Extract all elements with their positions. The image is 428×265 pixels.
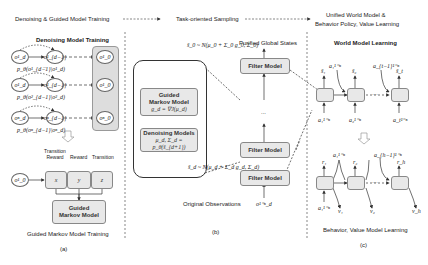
denoised-step-node-1: o¹_{d−1}: [46, 50, 64, 64]
value-2: v₂: [370, 208, 375, 214]
xyz-cell-x: x: [45, 171, 67, 189]
behavior-output-1: r₁: [322, 159, 326, 165]
purified-global-states-label: Purified Global States: [239, 40, 297, 46]
behavior-model-cell-1: [316, 176, 334, 190]
original-observations-symbol: o¹⁻ⁿ_d: [256, 200, 272, 207]
value-h: v_h: [412, 208, 421, 214]
behavior-side-action-h-1: a_{h−1}¹⁻ⁿ: [374, 151, 402, 158]
panel-a-caption: Guided Markov Model Training: [27, 231, 109, 237]
stage-title-unified-line1: Unified World Model &: [326, 12, 386, 18]
world-output-2: ŝ₂: [352, 68, 356, 74]
stage-title-sampling: Task-oriented Sampling: [176, 16, 239, 22]
guidance-gradient-formula: g_d = ∇J(μ_d): [151, 106, 187, 113]
zoomed-filter-detail-frame: [133, 60, 207, 178]
stage-title-unified-line2: Behavior Policy, Value Learning: [315, 21, 399, 27]
noisy-obs-node-1: o¹_d: [11, 50, 29, 64]
behavior-model-cell-h: [391, 176, 409, 190]
world-output-1: ŝ₁: [321, 68, 325, 74]
clean-obs-node-2: o¹_0: [96, 78, 114, 92]
behavior-side-action-1: a₁¹⁻ⁿ: [333, 151, 345, 158]
filter-model-top: Filter Model: [240, 58, 290, 74]
world-model-cell-t: [391, 88, 409, 102]
filter-model-bottom: Filter Model: [240, 170, 290, 186]
column-header-reward: Reward: [70, 154, 87, 160]
denoising-models-formula: μ_d, Σ_d = p_θ(ŝ_{d+1}): [141, 137, 197, 151]
noisy-obs-node-n: oⁿ_d: [11, 111, 29, 125]
noisy-obs-node-2: o¹_d: [11, 78, 29, 92]
filter-chain-dots: ...: [261, 109, 266, 115]
guided-markov-model-box-b: Guided Markov Model g_d = ∇J(μ_d): [140, 88, 198, 116]
world-input-t: a_t¹⁻ⁿ: [393, 116, 407, 123]
denoising-models-label: Denoising Models: [143, 130, 194, 137]
world-dots: ···: [372, 91, 378, 97]
world-model-cell-2: [347, 88, 365, 102]
denoised-step-node-n: oⁿ_{d−1}: [46, 111, 64, 125]
clean-obs-node-1: o¹_0: [96, 50, 114, 64]
xyz-cell-z: z: [91, 171, 113, 189]
xyz-cell-y: y: [67, 171, 91, 189]
panel-c-caption: Behavior, Value Model Learning: [323, 227, 408, 233]
column-header-transition: Transition: [92, 154, 114, 160]
world-input-1: a₁¹⁻ⁿ: [318, 116, 330, 123]
value-1: v₁: [338, 208, 343, 214]
transition-prob-1: p_θ(o¹_{d−1}|o¹_d): [17, 66, 65, 72]
guided-markov-model-box-a: Guided Markov Model: [52, 200, 106, 224]
behavior-model-cell-2: [347, 176, 365, 190]
guided-box-b-line2: Markov Model: [149, 99, 189, 106]
original-observations-label: Original Observations: [183, 201, 241, 207]
world-side-action-1: a₁¹⁻ⁿ: [329, 62, 341, 69]
behavior-input-1: a₁¹⁻ⁿ: [318, 204, 330, 211]
stage-title-denoising: Denoising & Guided Model Training: [15, 16, 109, 22]
panel-c-label: (c): [360, 242, 367, 248]
clean-obs-node-n: oⁿ_0: [96, 111, 114, 125]
clean-obs-input-node: o¹_0: [11, 173, 29, 187]
world-input-2: a₂¹⁻ⁿ: [349, 116, 361, 123]
filter-model-middle: Filter Model: [240, 142, 290, 158]
behavior-output-2: r₂: [353, 159, 357, 165]
panel-a-label: (a): [60, 246, 67, 252]
row-ellipsis: –: [43, 64, 46, 70]
world-side-action-t-1: a_{t−1}¹⁻ⁿ: [373, 62, 399, 69]
transition-prob-2: p_θ(o²_{d−1}|o²_d): [17, 94, 65, 100]
world-model-learning-title: World Model Learning: [334, 40, 397, 46]
behavior-dots: ···: [372, 179, 378, 185]
guided-box-b-line1: Guided: [159, 92, 180, 99]
behavior-output-h: r_h: [397, 159, 405, 165]
guided-box-line1: Guided: [69, 205, 90, 212]
denoising-model-training-title: Denoising Model Training: [36, 37, 109, 43]
denoised-step-node-2: o¹_{d−1}: [46, 78, 64, 92]
denoising-models-box: Denoising Models μ_d, Σ_d = p_θ(ŝ_{d+1}): [140, 128, 198, 152]
world-model-cell-1: [316, 88, 334, 102]
guided-box-line2: Markov Model: [59, 212, 99, 219]
panel-b-label: (b): [212, 229, 219, 235]
transition-prob-n: p_θ(oⁿ_{d−1}|oⁿ_d): [17, 127, 65, 133]
column-header-transition-reward: Transition Reward: [40, 148, 70, 160]
